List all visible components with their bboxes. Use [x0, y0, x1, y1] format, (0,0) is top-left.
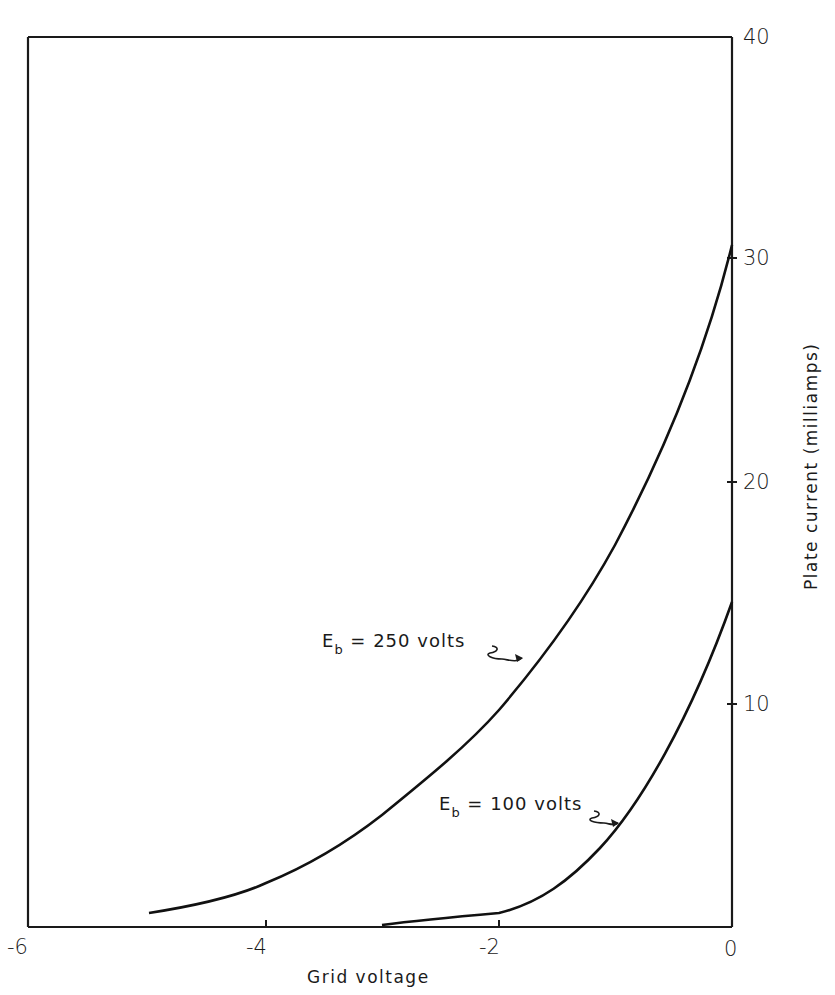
- x-axis-title: Grid voltage: [307, 967, 430, 987]
- x-tick-label: -6: [7, 935, 28, 959]
- y-tick-label: 30: [743, 246, 770, 270]
- svg-text:Eb = 100 volts: Eb = 100 volts: [439, 793, 582, 820]
- annotation-text: = 250 volts: [344, 630, 466, 651]
- plate-current-chart: -6 -4 -2 0 10 20 30 40 Grid voltage Plat…: [0, 0, 835, 995]
- plot-frame: [28, 37, 732, 927]
- x-tick-label: 0: [724, 937, 737, 961]
- y-tick-label: 20: [743, 470, 770, 494]
- annotation-e: E: [322, 630, 334, 651]
- annotation-e: E: [439, 793, 451, 814]
- annotation-sub-b: b: [334, 642, 343, 657]
- y-tick-label: 10: [743, 692, 770, 716]
- annotation-eb-250: Eb = 250 volts: [322, 630, 523, 662]
- annotation-eb-100: Eb = 100 volts: [439, 793, 619, 827]
- x-tick-label: -4: [246, 935, 267, 959]
- y-axis-title: Plate current (milliamps): [801, 343, 821, 591]
- x-tick-label: -2: [479, 935, 500, 959]
- svg-text:Eb = 250 volts: Eb = 250 volts: [322, 630, 465, 657]
- y-tick-label: 40: [743, 25, 770, 49]
- annotation-sub-b: b: [451, 805, 460, 820]
- annotation-text: = 100 volts: [461, 793, 583, 814]
